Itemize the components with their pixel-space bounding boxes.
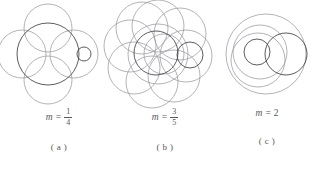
diagram-b [112, 0, 218, 108]
light-circles-a [0, 4, 98, 104]
figure-panel-a: m = 1 4 ( a ) [0, 0, 118, 177]
diagram-a-svg [0, 0, 118, 108]
figure-panel-c: m = 2 ( c ) [214, 0, 320, 177]
sub-caption-a: ( a ) [0, 142, 118, 152]
m-symbol-b: m [152, 112, 159, 123]
m-fraction-a: 1 4 [64, 108, 72, 127]
m-symbol-c: m [255, 108, 262, 119]
diagram-a [0, 0, 118, 108]
m-value-c: 2 [274, 108, 279, 119]
m-denominator-a: 4 [64, 119, 72, 127]
m-label-b: m = 3 5 [112, 108, 218, 132]
m-denominator-b: 5 [170, 119, 178, 127]
sub-caption-b: ( b ) [112, 142, 218, 152]
diagram-c [214, 0, 320, 108]
m-numerator-a: 1 [64, 108, 72, 116]
sub-caption-c: ( c ) [214, 136, 320, 146]
m-fraction-b: 3 5 [170, 108, 178, 127]
m-label-a: m = 1 4 [0, 108, 118, 132]
figure-panel-b: m = 3 5 ( b ) [112, 0, 218, 177]
diagram-b-svg [112, 0, 218, 108]
m-symbol-a: m [46, 112, 53, 123]
equals-sign-b: = [161, 112, 168, 123]
light-circles-c [226, 14, 306, 94]
m-numerator-b: 3 [170, 108, 178, 116]
light-circles-b [104, 0, 212, 108]
equals-sign-a: = [55, 112, 62, 123]
figure-sheet: m = 1 4 ( a ) [0, 0, 320, 177]
dark-circles-a [17, 23, 91, 85]
diagram-c-svg [214, 0, 320, 108]
equals-sign-c: = [264, 108, 271, 119]
m-label-c: m = 2 [214, 108, 320, 132]
